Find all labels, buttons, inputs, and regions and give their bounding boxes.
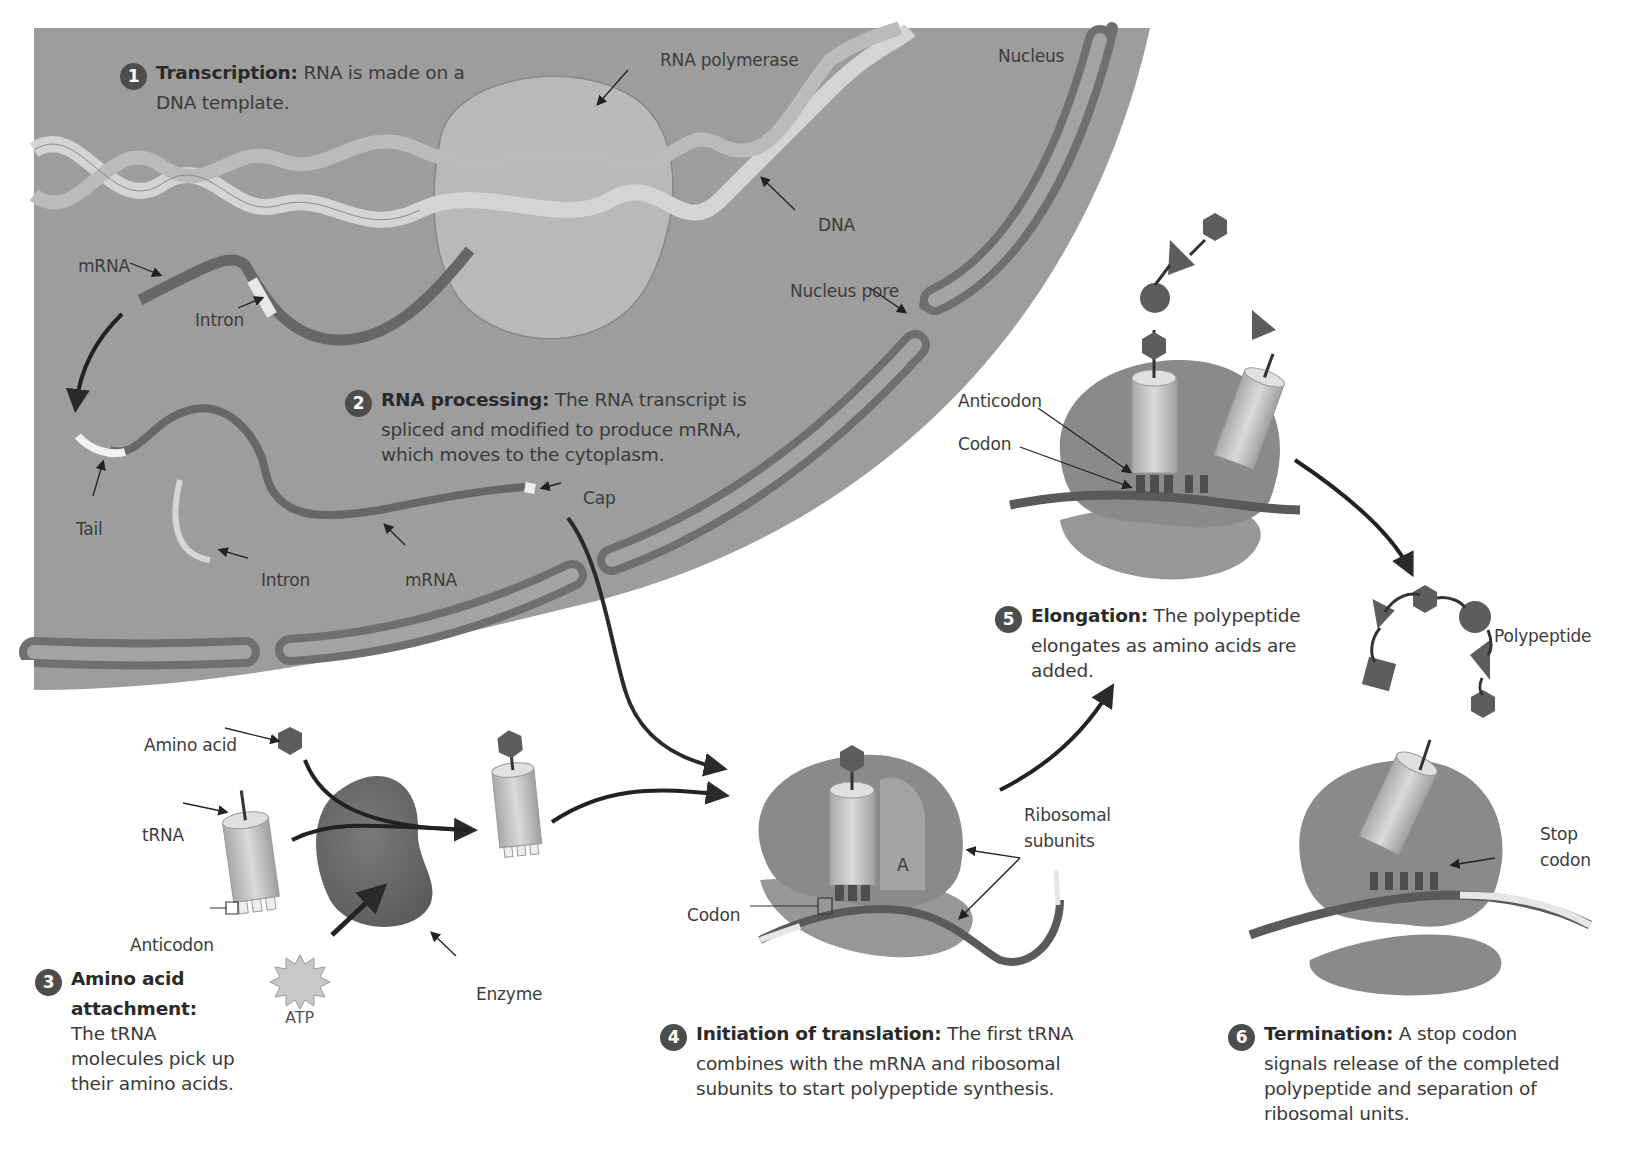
- label-a-site: A: [897, 855, 908, 875]
- amino-acid-attachment-art: [183, 727, 722, 1009]
- step-5-elongation: 5Elongation: The polypeptide elongates a…: [995, 603, 1300, 683]
- label-rna-polymerase: RNA polymerase: [660, 50, 798, 70]
- step-badge: 6: [1228, 1024, 1255, 1051]
- step-body-line: DNA template.: [156, 92, 289, 113]
- atp-starburst: [270, 955, 330, 1009]
- label-dna: DNA: [818, 215, 855, 235]
- label-amino-acid: Amino acid: [144, 735, 237, 755]
- label-intron-top: Intron: [195, 310, 244, 330]
- step-badge: 2: [345, 390, 372, 417]
- label-polypeptide: Polypeptide: [1494, 626, 1591, 646]
- step-4-initiation-of-translation: 4Initiation of translation: The first tR…: [660, 1021, 1073, 1101]
- step-badge: 1: [120, 63, 147, 90]
- step-body-line: RNA is made on a: [303, 62, 464, 83]
- step-body-line: spliced and modified to produce mRNA,: [381, 419, 741, 440]
- step-title: Termination:: [1264, 1023, 1393, 1044]
- step-badge: 4: [660, 1024, 687, 1051]
- step-2-rna-processing: 2RNA processing: The RNA transcript is s…: [345, 387, 746, 467]
- step-3-amino-acid-attachment: 3Amino acid attachment: The tRNA molecul…: [35, 966, 235, 1096]
- diagram-artwork: [0, 0, 1630, 1156]
- initiation-ribosome-art: [750, 690, 1110, 962]
- step-body-line: The first tRNA: [947, 1023, 1073, 1044]
- step-title: RNA processing:: [381, 389, 549, 410]
- step-body-line: ribosomal units.: [1264, 1103, 1409, 1124]
- label-tail: Tail: [76, 519, 103, 539]
- step-body-line: polypeptide and separation of: [1264, 1078, 1537, 1099]
- step-body-line: elongates as amino acids are: [1031, 635, 1296, 656]
- step-body-line: which moves to the cytoplasm.: [381, 444, 664, 465]
- step-title: attachment:: [71, 998, 197, 1019]
- protein-synthesis-diagram: RNA polymerase Nucleus DNA mRNA Intron N…: [0, 0, 1630, 1156]
- label-stop-2: codon: [1540, 850, 1591, 870]
- step-body-line: subunits to start polypeptide synthesis.: [696, 1078, 1054, 1099]
- label-mrna-top: mRNA: [78, 256, 130, 276]
- label-cap: Cap: [583, 488, 615, 508]
- label-intron-bottom: Intron: [261, 570, 310, 590]
- label-mrna-bottom: mRNA: [405, 570, 457, 590]
- step-body-line: A stop codon: [1399, 1023, 1517, 1044]
- step-body-line: The polypeptide: [1154, 605, 1301, 626]
- step-1-transcription: 1Transcription: RNA is made on a DNA tem…: [120, 60, 465, 115]
- label-nucleus-pore: Nucleus pore: [790, 281, 899, 301]
- label-nucleus: Nucleus: [998, 46, 1064, 66]
- step-body-line: their amino acids.: [71, 1073, 234, 1094]
- step-body-line: The tRNA: [71, 1023, 156, 1044]
- step-title: Initiation of translation:: [696, 1023, 942, 1044]
- step-body-line: signals release of the completed: [1264, 1053, 1559, 1074]
- termination-art: [1250, 585, 1590, 995]
- label-codon-step4: Codon: [687, 905, 740, 925]
- step-title: Transcription:: [156, 62, 298, 83]
- step-6-termination: 6Termination: A stop codon signals relea…: [1228, 1021, 1559, 1126]
- label-enzyme: Enzyme: [476, 984, 542, 1004]
- step-badge: 3: [35, 969, 62, 996]
- step-body-line: combines with the mRNA and ribosomal: [696, 1053, 1060, 1074]
- elongation-ribosome-art: [1010, 213, 1410, 579]
- step-title: Elongation:: [1031, 605, 1148, 626]
- step-badge: 5: [995, 606, 1022, 633]
- label-ribosomal-1: Ribosomal: [1024, 805, 1111, 825]
- label-atp: ATP: [285, 1008, 314, 1027]
- label-ribosomal-2: subunits: [1024, 831, 1095, 851]
- label-trna: tRNA: [142, 825, 184, 845]
- label-anticodon-step3: Anticodon: [130, 935, 214, 955]
- label-codon-step5: Codon: [958, 434, 1011, 454]
- step-body-line: added.: [1031, 660, 1094, 681]
- step-title: Amino acid: [71, 968, 184, 989]
- label-stop-1: Stop: [1540, 824, 1578, 844]
- step-body-line: molecules pick up: [71, 1048, 235, 1069]
- step-body-line: The RNA transcript is: [555, 389, 746, 410]
- label-anticodon-step5: Anticodon: [958, 391, 1042, 411]
